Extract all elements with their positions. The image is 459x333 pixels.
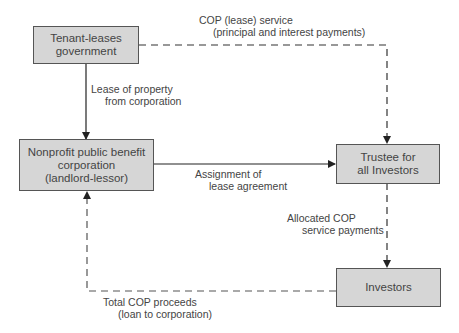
trustee-label-2: all Investors [357, 164, 418, 177]
investors-label: Investors [365, 281, 412, 294]
lease-service-label-1: COP (lease) service [199, 14, 365, 26]
allocated-label-1: Allocated COP [287, 212, 384, 224]
lease-property-label-1: Lease of property [91, 83, 181, 95]
proceeds-label: Total COP proceeds (loan to corporation) [103, 296, 212, 320]
allocated-label: Allocated COP service payments [287, 212, 384, 236]
tenant-label-1: Tenant-leases [50, 32, 122, 45]
tenant-box: Tenant-leases government [33, 26, 139, 64]
nonprofit-box: Nonprofit public benefit corporation (la… [19, 139, 154, 191]
tenant-label-2: government [50, 45, 122, 58]
lease-service-label-2: (principal and interest payments) [199, 26, 365, 38]
trustee-box: Trustee for all Investors [336, 144, 440, 184]
trustee-label-1: Trustee for [357, 151, 418, 164]
proceeds-label-2: (loan to corporation) [103, 308, 212, 320]
lease-property-label-2: from corporation [91, 95, 181, 107]
proceeds-arrow [87, 192, 336, 291]
lease-service-label: COP (lease) service (principal and inter… [199, 14, 365, 38]
assignment-label-2: lease agreement [195, 180, 287, 192]
proceeds-label-1: Total COP proceeds [103, 296, 212, 308]
nonprofit-label-3: (landlord-lessor) [28, 172, 146, 185]
assignment-label: Assignment of lease agreement [195, 168, 287, 192]
investors-box: Investors [336, 268, 441, 307]
assignment-label-1: Assignment of [195, 168, 287, 180]
allocated-label-2: service payments [287, 224, 384, 236]
nonprofit-label-2: corporation [28, 159, 146, 172]
nonprofit-label-1: Nonprofit public benefit [28, 146, 146, 159]
lease-property-label: Lease of property from corporation [91, 83, 181, 107]
